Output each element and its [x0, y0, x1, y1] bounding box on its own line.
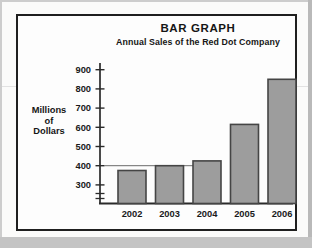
y-axis-tick-label-400: 400 — [75, 161, 91, 171]
page-edge-bottom — [0, 237, 312, 248]
y-axis-tick-label-800: 800 — [75, 84, 91, 94]
x-axis-label-2004: 2004 — [197, 209, 219, 219]
bar-2004 — [193, 161, 221, 204]
y-axis-tick-label-300: 300 — [75, 180, 91, 190]
bar-chart: 9008007006005004003002002200320042005200… — [16, 14, 297, 231]
x-axis-label-2006: 2006 — [272, 209, 293, 219]
y-axis-tick-label-600: 600 — [75, 123, 91, 133]
y-axis-tick-label-900: 900 — [75, 65, 91, 75]
page-edge-right — [308, 0, 312, 248]
y-axis-tick-label-500: 500 — [75, 142, 91, 152]
y-axis-tick-label-700: 700 — [75, 103, 91, 113]
bar-2003 — [156, 166, 184, 204]
bar-2002 — [118, 171, 146, 204]
page-edge-top — [0, 0, 312, 2]
x-axis-label-2002: 2002 — [122, 209, 143, 219]
bar-2005 — [231, 124, 259, 203]
x-axis-label-2003: 2003 — [159, 209, 180, 219]
scanned-page: BAR GRAPH Annual Sales of the Red Dot Co… — [0, 0, 312, 248]
page-edge-left — [0, 0, 2, 248]
bar-2006 — [268, 79, 296, 203]
x-axis-label-2005: 2005 — [234, 209, 255, 219]
